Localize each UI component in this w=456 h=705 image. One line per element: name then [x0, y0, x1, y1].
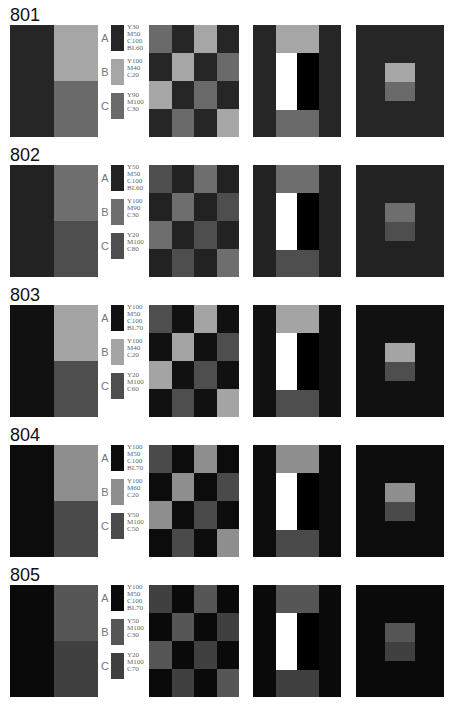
inset-panel	[356, 25, 444, 137]
checker-tile-a	[217, 361, 240, 389]
swatch-chip	[111, 513, 124, 539]
checker-tile-c	[149, 445, 172, 473]
checker-tile-a	[217, 445, 240, 473]
checker-tile-a	[172, 81, 195, 109]
checkerboard-panel	[149, 305, 239, 417]
color-c-block	[385, 82, 415, 101]
checker-tile-a	[194, 193, 217, 221]
color-c-block	[54, 361, 98, 417]
checker-tile-c	[194, 81, 217, 109]
split-panel	[10, 165, 98, 277]
swatch-b: BY100 M40 C20	[100, 59, 148, 87]
color-c-block	[276, 530, 319, 557]
swatch-spec: Y30 M50 C100 BL60	[127, 24, 143, 52]
color-a-block	[10, 165, 54, 277]
checker-tile-a	[149, 53, 172, 81]
color-a-strip	[319, 445, 341, 557]
color-a-block	[10, 445, 54, 557]
swatch-letter: B	[100, 66, 110, 78]
checker-tile-c	[194, 501, 217, 529]
swatch-c: CY20 M100 C80	[100, 233, 148, 261]
color-b-block	[54, 585, 98, 641]
color-c-block	[385, 502, 415, 521]
swatch-spec: Y50 M100 C50	[127, 512, 144, 533]
white-block	[276, 53, 297, 110]
checker-tile-a	[172, 501, 195, 529]
checker-tile-a	[217, 165, 240, 193]
checkerboard-panel	[149, 165, 239, 277]
swatch-c: CY50 M100 C50	[100, 513, 148, 541]
swatch-spec: Y20 M100 C70	[127, 652, 144, 673]
swatch-a: AY100 M50 C100 BL70	[100, 445, 148, 473]
checker-tile-a	[194, 333, 217, 361]
checker-tile-c	[194, 641, 217, 669]
swatch-b: BY100 M40 C20	[100, 339, 148, 367]
white-block	[276, 613, 297, 670]
swatch-letter: C	[100, 100, 110, 112]
split-panel	[10, 305, 98, 417]
checker-tile-b	[217, 389, 240, 417]
color-section-803: 803AY100 M50 C100 BL70BY100 M40 C20CY20 …	[0, 305, 456, 445]
checker-tile-b	[194, 305, 217, 333]
color-b-block	[54, 165, 98, 221]
checker-tile-c	[217, 193, 240, 221]
swatch-letter: C	[100, 660, 110, 672]
color-section-804: 804AY100 M50 C100 BL70BY100 M60 C20CY50 …	[0, 445, 456, 585]
color-c-block	[54, 221, 98, 277]
checker-tile-a	[194, 389, 217, 417]
swatch-letter: A	[100, 592, 110, 604]
swatch-letter: A	[100, 172, 110, 184]
checker-tile-b	[149, 361, 172, 389]
black-block	[297, 333, 319, 390]
swatch-a: AY50 M50 C100 BL60	[100, 165, 148, 193]
swatch-spec: Y20 M100 C60	[127, 372, 144, 393]
checker-tile-c	[194, 221, 217, 249]
color-a-strip	[319, 25, 341, 137]
section-title: 805	[10, 566, 40, 584]
color-a-strip	[319, 305, 341, 417]
color-b-block	[385, 63, 415, 82]
checker-tile-b	[194, 445, 217, 473]
checker-tile-b	[194, 165, 217, 193]
checker-tile-a	[172, 165, 195, 193]
checker-tile-a	[217, 305, 240, 333]
swatch-spec: Y100 M40 C20	[127, 58, 143, 79]
checker-tile-a	[149, 389, 172, 417]
color-a-strip	[253, 585, 276, 697]
swatch-letter: A	[100, 452, 110, 464]
swatch-spec: Y20 M100 C80	[127, 232, 144, 253]
checker-tile-a	[217, 81, 240, 109]
color-a-strip	[253, 25, 276, 137]
checker-tile-c	[149, 165, 172, 193]
black-block	[297, 53, 319, 110]
inset-panel	[356, 165, 444, 277]
swatch-chip	[111, 479, 124, 505]
swatch-letter: B	[100, 206, 110, 218]
color-b-block	[276, 445, 319, 473]
contrast-panel	[253, 585, 341, 697]
white-block	[276, 473, 297, 530]
color-a-strip	[253, 165, 276, 277]
color-a-block	[10, 305, 54, 417]
swatch-chip	[111, 165, 124, 191]
checker-tile-c	[149, 585, 172, 613]
color-c-block	[276, 670, 319, 697]
checker-tile-a	[217, 641, 240, 669]
checker-tile-c	[172, 109, 195, 137]
swatch-spec: Y100 M60 C20	[127, 478, 143, 499]
checker-tile-a	[217, 25, 240, 53]
color-b-block	[54, 305, 98, 361]
color-b-block	[385, 483, 415, 502]
checker-tile-a	[172, 585, 195, 613]
split-panel	[10, 445, 98, 557]
checker-tile-c	[217, 53, 240, 81]
swatch-spec: Y50 M100 C30	[127, 618, 144, 639]
swatch-letter: B	[100, 486, 110, 498]
checker-tile-c	[172, 389, 195, 417]
color-b-block	[385, 203, 415, 222]
swatch-chip	[111, 619, 124, 645]
inset-panel	[356, 585, 444, 697]
split-panel	[10, 25, 98, 137]
swatch-chip	[111, 305, 124, 331]
checker-tile-a	[172, 361, 195, 389]
